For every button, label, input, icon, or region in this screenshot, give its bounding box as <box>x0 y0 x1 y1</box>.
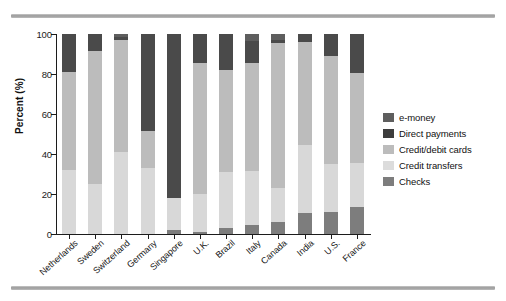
bar-segment[interactable] <box>193 194 207 232</box>
bar-segment[interactable] <box>298 213 312 234</box>
x-tick-mark <box>200 234 201 239</box>
bar-segment[interactable] <box>88 184 102 234</box>
bar-segment[interactable] <box>350 163 364 207</box>
bar-segment[interactable] <box>350 73 364 163</box>
bar-segment[interactable] <box>62 72 76 170</box>
bar-segment[interactable] <box>167 34 181 198</box>
legend-label: Checks <box>399 176 430 187</box>
bar-segment[interactable] <box>219 228 233 234</box>
bar-segment[interactable] <box>141 168 155 234</box>
legend-label: Credit transfers <box>399 160 462 171</box>
legend-swatch-icon <box>383 177 394 186</box>
legend-item[interactable]: Credit/debit cards <box>383 142 501 157</box>
bar[interactable] <box>167 34 181 234</box>
legend-swatch-icon <box>383 113 394 122</box>
y-tick-label: 0 <box>47 229 52 240</box>
x-tick-mark <box>174 234 175 239</box>
y-tick-label: 80 <box>42 69 52 80</box>
bar-segment[interactable] <box>324 34 338 56</box>
x-tick-mark <box>357 234 358 239</box>
bar-segment[interactable] <box>271 40 285 43</box>
x-axis-line <box>56 234 371 235</box>
bar-segment[interactable] <box>245 34 259 41</box>
legend-item[interactable]: e-money <box>383 110 501 125</box>
bar-segment[interactable] <box>88 51 102 184</box>
bar-segment[interactable] <box>62 34 76 72</box>
bar[interactable] <box>62 34 76 234</box>
bar[interactable] <box>88 34 102 234</box>
bar-segment[interactable] <box>219 34 233 70</box>
bar-segment[interactable] <box>114 40 128 152</box>
bar-segment[interactable] <box>219 70 233 172</box>
x-tick-mark <box>331 234 332 239</box>
bar-segment[interactable] <box>141 131 155 168</box>
bar-segment[interactable] <box>114 34 128 37</box>
legend-label: Credit/debit cards <box>399 144 472 155</box>
bar-segment[interactable] <box>298 34 312 42</box>
x-tick-label: U.K. <box>191 238 210 257</box>
bar-segment[interactable] <box>167 230 181 234</box>
bar-segment[interactable] <box>324 56 338 164</box>
bar[interactable] <box>193 34 207 234</box>
legend-label: e-money <box>399 112 435 123</box>
figure-container: Percent (%) 020406080100 NetherlandsSwed… <box>0 0 506 301</box>
y-tick-label: 100 <box>36 29 52 40</box>
bar-segment[interactable] <box>193 232 207 234</box>
bar-segment[interactable] <box>271 34 285 40</box>
bar-segment[interactable] <box>88 34 102 51</box>
bar-segment[interactable] <box>245 41 259 63</box>
bar-segment[interactable] <box>193 34 207 63</box>
page-rule-top <box>11 14 495 18</box>
bar-segment[interactable] <box>298 42 312 145</box>
x-tick-mark <box>69 234 70 239</box>
bar-segment[interactable] <box>324 212 338 234</box>
x-tick-mark <box>95 234 96 239</box>
bar[interactable] <box>298 34 312 234</box>
chart-legend: e-moneyDirect paymentsCredit/debit cards… <box>383 110 501 190</box>
bar-segment[interactable] <box>324 164 338 212</box>
y-tick-label: 40 <box>42 149 52 160</box>
bar-segment[interactable] <box>350 207 364 234</box>
x-tick-label: India <box>294 238 315 258</box>
bar-segment[interactable] <box>141 34 155 131</box>
legend-item[interactable]: Direct payments <box>383 126 501 141</box>
bar[interactable] <box>245 34 259 234</box>
x-tick-label: Italy <box>244 238 263 256</box>
bar-segment[interactable] <box>271 43 285 188</box>
bar-segment[interactable] <box>271 222 285 234</box>
legend-swatch-icon <box>383 161 394 170</box>
x-tick-label: Canada <box>259 238 289 266</box>
bar-segment[interactable] <box>167 198 181 230</box>
bar-segment[interactable] <box>245 225 259 234</box>
legend-item[interactable]: Credit transfers <box>383 158 501 173</box>
bar[interactable] <box>114 34 128 234</box>
bar[interactable] <box>350 34 364 234</box>
plot-area: 020406080100 <box>56 34 370 234</box>
x-tick-label-text: Brazil <box>214 238 237 260</box>
bar[interactable] <box>219 34 233 234</box>
x-tick-label: France <box>341 238 368 264</box>
bar-segment[interactable] <box>219 172 233 228</box>
legend-item[interactable]: Checks <box>383 174 501 189</box>
y-axis-title: Percent (%) <box>14 78 25 134</box>
x-tick-label-text: France <box>341 238 368 264</box>
bar-segment[interactable] <box>350 34 364 73</box>
x-tick-mark <box>121 234 122 239</box>
bar[interactable] <box>271 34 285 234</box>
x-tick-label: U.S. <box>322 238 341 257</box>
bar[interactable] <box>324 34 338 234</box>
page-rule-bottom <box>11 286 495 290</box>
bar-segment[interactable] <box>62 170 76 234</box>
x-tick-label-text: Netherlands <box>38 238 80 277</box>
bar-segment[interactable] <box>114 37 128 40</box>
bar-segment[interactable] <box>114 152 128 234</box>
x-tick-label-text: Italy <box>244 238 263 256</box>
bar-segment[interactable] <box>193 63 207 194</box>
bar-segment[interactable] <box>245 171 259 225</box>
bar-segment[interactable] <box>271 188 285 222</box>
bar-segment[interactable] <box>298 145 312 213</box>
x-tick-label-text: India <box>294 238 315 258</box>
bar[interactable] <box>141 34 155 234</box>
x-tick-label: Netherlands <box>38 238 80 277</box>
bar-segment[interactable] <box>245 63 259 171</box>
